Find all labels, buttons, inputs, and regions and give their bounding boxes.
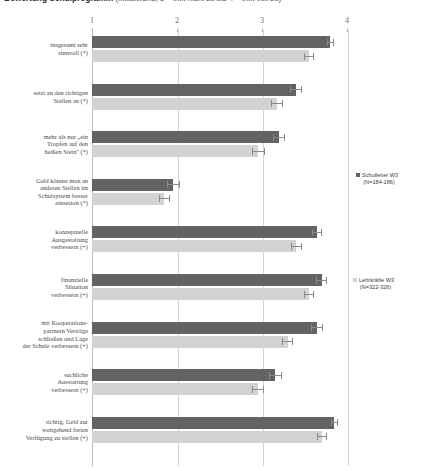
error-bar-cap (333, 39, 334, 46)
error-bar-cap (321, 229, 322, 236)
error-bar (317, 436, 326, 437)
category-label-line: mit Kooperations- (0, 319, 88, 327)
category-label: Geld könnte man ananderen Stellen imSchu… (0, 177, 88, 207)
category-label-line: Ausgestaltung (0, 236, 88, 244)
error-bar-cap (313, 291, 314, 298)
error-bar-cap (326, 433, 327, 440)
error-bar-cap (269, 372, 270, 379)
error-bar-cap (337, 419, 338, 426)
chart-title-main: Bewertung Schulprogramm (4, 0, 113, 3)
error-bar-cap (326, 277, 327, 284)
error-bar (273, 137, 285, 138)
category-label-line: Geld könnte man an (0, 177, 88, 185)
category-label-line: Schulsystem besser (0, 192, 88, 200)
category-label-line: konzeptuelle (0, 228, 88, 236)
error-bar-cap (311, 324, 312, 331)
error-bar-cap (301, 243, 302, 250)
bar-schulleiter (92, 36, 330, 48)
legend-item[interactable]: Schulleiter W3(N=184-186) (356, 172, 398, 186)
x-axis: 1234 (0, 16, 428, 30)
error-bar (331, 422, 339, 423)
legend-label: Schulleiter W3 (362, 172, 398, 178)
error-bar-cap (282, 100, 283, 107)
error-bar-cap (317, 433, 318, 440)
category-label-line: anderen Stellen im (0, 184, 88, 192)
error-bar-cap (327, 39, 328, 46)
category-label-line: Situation (0, 283, 88, 291)
bar-group (92, 274, 387, 300)
error-bar (282, 341, 293, 342)
error-bar (312, 232, 322, 233)
error-bar (252, 389, 264, 390)
error-bar-cap (169, 195, 170, 202)
error-bar (159, 198, 170, 199)
bar-lehrkraefte (92, 193, 164, 205)
category-label-line: schließen und Lage (0, 335, 88, 343)
bar-group (92, 131, 387, 157)
error-bar-cap (281, 372, 282, 379)
bar-lehrkraefte (92, 288, 309, 300)
legend-swatch-icon (353, 278, 357, 282)
error-bar (304, 294, 314, 295)
category-label-line: Tropfen auf den (0, 140, 88, 148)
chart-title: Bewertung Schulprogramm (Mittelwerte, 1 … (4, 0, 424, 4)
x-axis-tick-label: 2 (162, 16, 192, 25)
chart-category-row: sachlicheAusstattungverbessern (+) (0, 369, 428, 395)
bar-group (92, 36, 387, 62)
category-label-line: finanzielle (0, 276, 88, 284)
chart-category-row: setzt an den richtigenStellen an (*) (0, 84, 428, 110)
category-label: richtig, Geld zurweitgehend freienVerfüg… (0, 418, 88, 441)
category-label-line: verbessern (+) (0, 291, 88, 299)
category-label: mehr als nur „einTropfen auf denheißen S… (0, 133, 88, 156)
error-bar (271, 103, 283, 104)
legend-label: Lehrkräfte W3 (359, 277, 394, 283)
error-bar-cap (271, 100, 272, 107)
bar-schulleiter (92, 417, 334, 429)
bar-lehrkraefte (92, 98, 277, 110)
bar-group (92, 322, 387, 348)
category-label-line: verbessern (+) (0, 243, 88, 251)
error-bar-cap (179, 181, 180, 188)
error-bar (327, 42, 335, 43)
bar-lehrkraefte (92, 383, 258, 395)
error-bar-cap (291, 243, 292, 250)
bar-schulleiter (92, 369, 275, 381)
error-bar (290, 89, 302, 90)
error-bar (304, 56, 314, 57)
chart-title-sub: (Mittelwerte, 1 = trifft nicht zu bis 4 … (115, 0, 281, 3)
bar-schulleiter (92, 226, 317, 238)
category-label-line: insgesamt sehr (0, 41, 88, 49)
category-label: sachlicheAusstattungverbessern (+) (0, 371, 88, 394)
category-label-line: sachliche (0, 371, 88, 379)
error-bar-cap (159, 195, 160, 202)
category-label-line: Ausstattung (0, 378, 88, 386)
error-bar-cap (273, 134, 274, 141)
category-label-line: der Schule verbessern (+) (0, 342, 88, 350)
error-bar-cap (312, 229, 313, 236)
bar-schulleiter (92, 84, 296, 96)
error-bar-cap (331, 419, 332, 426)
category-label-line: weitgehend freien (0, 426, 88, 434)
chart-category-row: richtig, Geld zurweitgehend freienVerfüg… (0, 417, 428, 443)
category-label-line: setzt an den richtigen (0, 89, 88, 97)
bar-schulleiter (92, 274, 322, 286)
error-bar-cap (292, 338, 293, 345)
legend-sample-size: (N=184-186) (356, 179, 398, 186)
error-bar-cap (167, 181, 168, 188)
error-bar (269, 375, 282, 376)
x-axis-tick-label: 1 (77, 16, 107, 25)
bar-schulleiter (92, 131, 279, 143)
category-label: insgesamt sehrsinnvoll (*) (0, 41, 88, 56)
category-label-line: Stellen an (*) (0, 97, 88, 105)
bar-lehrkraefte (92, 336, 288, 348)
bar-schulleiter (92, 322, 317, 334)
x-axis-tick-label: 3 (247, 16, 277, 25)
error-bar (316, 280, 327, 281)
legend-item[interactable]: Lehrkräfte W3(N=322-326) (353, 277, 394, 291)
category-label-line: verbessern (+) (0, 386, 88, 394)
error-bar-cap (264, 148, 265, 155)
bar-group (92, 417, 387, 443)
category-label: mit Kooperations-partnern Verträgeschlie… (0, 319, 88, 349)
bar-group (92, 84, 387, 110)
error-bar-cap (252, 386, 253, 393)
